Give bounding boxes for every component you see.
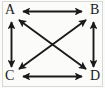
- vertex-label-c: C: [5, 69, 14, 83]
- vertex-label-a: A: [5, 3, 15, 17]
- graph-figure: A B C D: [0, 0, 105, 88]
- vertex-label-d: D: [90, 69, 100, 83]
- vertex-label-b: B: [90, 3, 99, 17]
